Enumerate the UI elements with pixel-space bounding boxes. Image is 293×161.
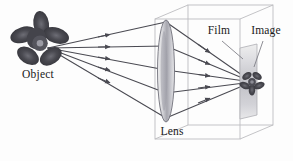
camera-box-edge-tl [155, 5, 188, 19]
refracted-arrow-2 [198, 60, 210, 65]
optics-diagram-figure: Object Lens Film Image [0, 0, 293, 161]
film-label: Film [208, 24, 231, 36]
refracted-ray-arrowheads [198, 44, 210, 103]
refracted-arrow-3 [198, 75, 210, 77]
incident-arrow-5 [98, 78, 110, 83]
lens-element [158, 20, 175, 122]
incident-ray-4 [48, 48, 166, 93]
refracted-arrow-1 [198, 44, 210, 52]
camera-box-back-face [188, 5, 273, 125]
incident-ray-arrowheads [98, 34, 110, 82]
diagram-canvas: Object Lens Film Image [0, 0, 293, 161]
lens-label: Lens [160, 125, 183, 137]
object-label: Object [22, 68, 54, 81]
object-flower [8, 10, 71, 70]
lens-inner-shade [161, 31, 168, 111]
refracted-rays-group [166, 22, 252, 118]
camera-box-edge-tr [240, 5, 273, 19]
incident-arrow-1 [98, 34, 110, 37]
image-label: Image [251, 24, 281, 37]
camera-box-edge-br [240, 125, 273, 139]
